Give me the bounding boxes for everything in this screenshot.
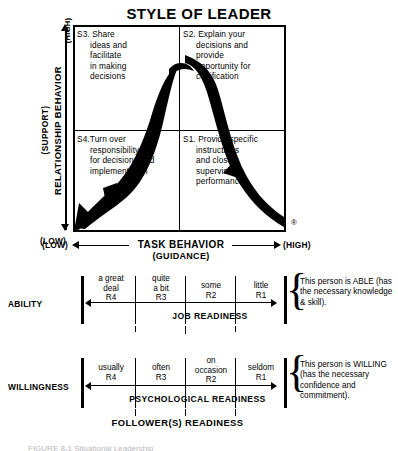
followers-readiness-title: FOLLOWER(S) READINESS — [70, 417, 285, 428]
willingness-cell-r3: often R3 — [138, 363, 184, 382]
job-readiness-title: JOB READINESS — [135, 311, 285, 321]
willingness-cell-r3-line1: often — [138, 363, 184, 373]
y-axis-line — [65, 27, 67, 230]
willingness-cell-r1-line1: seldom — [238, 363, 284, 373]
willingness-cell-r2-level: R2 — [188, 375, 234, 385]
willingness-cell-r2-line2: occasion — [188, 366, 234, 376]
x-axis-low-label: (LOW) — [42, 240, 68, 250]
willingness-cell-r1-level: R1 — [238, 373, 284, 383]
x-axis-left-arrow-icon — [72, 241, 79, 249]
y-axis-support-label: (SUPPORT) — [40, 55, 50, 205]
figure-caption: FIGURE 8-1 Situational Leadership — [28, 444, 388, 451]
y-axis-title: RELATIONSHIP BEHAVIOR — [52, 56, 63, 206]
ability-cell-r3-level: R3 — [138, 293, 184, 303]
ability-cell-r2-level: R2 — [188, 291, 234, 301]
ability-row-label: ABILITY — [8, 299, 42, 309]
ability-cell-r4-level: R4 — [88, 293, 134, 303]
willingness-cell-r2: on occasion R2 — [188, 356, 234, 385]
willingness-tick-extension-3 — [235, 409, 236, 416]
ability-tick-extension-3 — [235, 326, 236, 332]
willingness-axis-line — [91, 385, 272, 386]
willingness-row-label: WILLINGNESS — [8, 382, 69, 392]
ability-cell-r2-line1: some — [188, 281, 234, 291]
willingness-cell-r2-line1: on — [188, 356, 234, 366]
page-title: STYLE OF LEADER — [0, 5, 398, 22]
ability-scale-left-endbar — [81, 276, 84, 324]
ability-tick-extension-2 — [185, 326, 186, 334]
x-axis-guidance-label: (GUIDANCE) — [129, 251, 233, 261]
ability-cell-r4-line2: deal — [88, 284, 134, 294]
willingness-cell-r4: usually R4 — [88, 363, 134, 382]
x-axis-right-arrow-icon — [274, 241, 281, 249]
willingness-cell-r3-level: R3 — [138, 373, 184, 383]
ability-cell-r4: a great deal R4 — [88, 274, 134, 303]
ability-description: This person is ABLE (has the necessary k… — [300, 277, 396, 308]
psychological-readiness-title: PSYCHOLOGICAL READINESS — [110, 394, 285, 404]
ability-cell-r1-line1: little — [238, 281, 284, 291]
willingness-cell-r1: seldom R1 — [238, 363, 284, 382]
bell-curve — [73, 25, 286, 232]
ability-cell-r1: little R1 — [238, 281, 284, 300]
y-axis-high-label: (HIGH) — [63, 6, 72, 56]
ability-cell-r4-line1: a great — [88, 274, 134, 284]
willingness-tick-extension-2 — [185, 409, 186, 416]
ability-cell-r2: some R2 — [188, 281, 234, 300]
willingness-tick-extension-1 — [135, 409, 136, 416]
willingness-description: This person is WILLING (has the necessar… — [300, 360, 396, 402]
ability-tick-extension-1 — [135, 326, 136, 332]
ability-cell-r3-line2: a bit — [138, 284, 184, 294]
x-axis-title: TASK BEHAVIOR — [129, 239, 233, 250]
y-axis-down-arrow-icon — [61, 224, 69, 231]
willingness-cell-r4-level: R4 — [88, 373, 134, 383]
x-axis-right-line — [232, 245, 274, 247]
ability-cell-r1-level: R1 — [238, 291, 284, 301]
ability-cell-r3: quite a bit R3 — [138, 274, 184, 303]
x-axis-left-line — [79, 245, 129, 247]
registered-trademark-icon: ® — [291, 219, 297, 227]
x-axis-high-label: (HIGH) — [283, 240, 311, 250]
willingness-scale-left-endbar — [81, 358, 84, 408]
ability-cell-r3-line1: quite — [138, 274, 184, 284]
willingness-cell-r4-line1: usually — [88, 363, 134, 373]
